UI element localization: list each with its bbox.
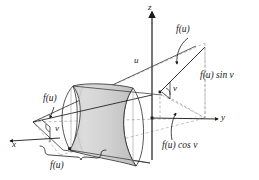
angle-v-right-marker <box>162 82 170 99</box>
figure-geometry <box>0 0 259 180</box>
y-axis-label: y <box>221 113 225 122</box>
generating-line-right-plane <box>160 47 205 92</box>
f-sin-v-label: f(u) sin v <box>200 71 234 81</box>
surface-of-revolution-figure: z y x u f(u) f(u) f(u) v v f(u) sin v f(… <box>0 0 259 180</box>
f-of-u-left-label: f(u) <box>43 94 57 104</box>
z-axis-label: z <box>148 3 152 12</box>
leader-to-generating-line-top <box>177 38 188 64</box>
f-cos-v-label: f(u) cos v <box>162 141 197 151</box>
x-axis-label: x <box>12 140 16 149</box>
y-axis-line <box>152 118 218 119</box>
u-parameter-label: u <box>134 56 139 65</box>
f-of-u-brace-label: f(u) <box>50 161 64 171</box>
angle-v-right-label: v <box>173 84 177 93</box>
f-of-u-top-label: f(u) <box>176 25 190 35</box>
shaded-surface-of-revolution <box>70 84 136 166</box>
right-vertical-plane <box>160 47 205 118</box>
angle-v-left-label: v <box>55 124 59 133</box>
